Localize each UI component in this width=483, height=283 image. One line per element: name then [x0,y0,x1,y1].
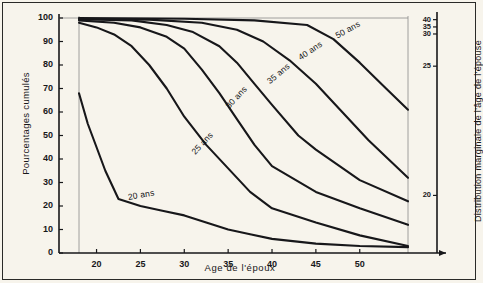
y-axis-left-tick-label: 30 [27,177,53,187]
y-axis-right-tick-label: 30 [411,29,431,38]
y-axis-left-tick-label: 40 [27,153,53,163]
y-axis-left-tick-label: 20 [27,200,53,210]
y-axis-left-title: Pourcentages cumulés [20,49,31,199]
series-curve-20-ans [79,93,408,247]
series-curve-40-ans [79,19,408,178]
y-axis-left-tick-label: 70 [27,83,53,93]
y-axis-right-tick-label: 20 [411,190,431,199]
y-axis-left-tick-label: 60 [27,106,53,116]
series-curves [79,18,408,247]
y-axis-left-tick-label: 0 [27,247,53,257]
y-axis-left-tick-label: 100 [27,12,53,22]
x-axis-tick-label: 25 [128,259,152,269]
series-curve-25-ans [79,23,408,246]
y-axis-right-title: Distribution marginale de l'âge de l'épo… [473,21,483,241]
x-axis-tick-label: 20 [85,259,109,269]
y-axis-left-tick-label: 90 [27,36,53,46]
x-axis-arrowhead [439,250,446,256]
y-axis-left-tick-label: 10 [27,224,53,234]
series-curve-35-ans [79,19,408,201]
y-axis-right-tick-label: 25 [411,61,431,70]
y-axis-left-tick-label: 50 [27,130,53,140]
axes-lines [59,12,446,256]
x-axis-title: Age de l'époux [150,262,330,273]
guide-lines [79,16,408,253]
y-axis-left-tick-label: 80 [27,59,53,69]
x-axis-tick-label: 50 [348,259,372,269]
